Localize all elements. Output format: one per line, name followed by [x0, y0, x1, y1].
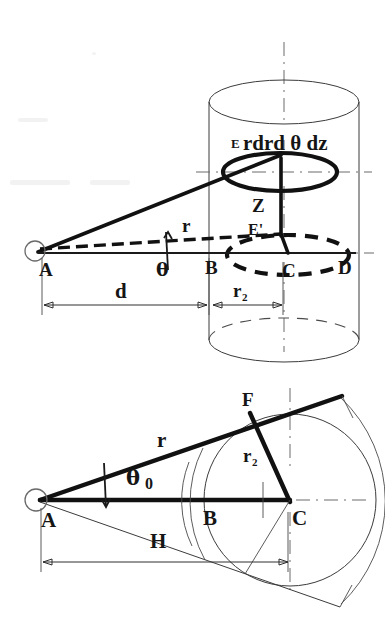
label-point-e: E	[231, 136, 240, 151]
label-point-a-upper: A	[39, 259, 53, 280]
outer-cap-arc-right	[341, 398, 385, 604]
figure-root: E rdrd θ dz Z E' A B C D r θ d r 2	[0, 0, 385, 644]
label-point-c-lower: C	[292, 506, 307, 530]
label-point-d-upper: D	[338, 257, 352, 278]
sector-arc-outer-b	[190, 448, 205, 560]
label-radius-r-upper: r	[182, 215, 191, 236]
label-angle-theta-upper: θ	[156, 258, 169, 280]
label-point-f: F	[242, 389, 254, 410]
label-point-b-lower: B	[203, 506, 217, 530]
label-point-b-upper: B	[205, 257, 218, 278]
outer-cap-tick-bottom	[340, 585, 352, 607]
label-dim-r2: r	[233, 280, 242, 301]
label-dim-r2-subscript: 2	[242, 291, 248, 303]
label-point-e-prime: E'	[248, 221, 263, 238]
upper-panel: E rdrd θ dz Z E' A B C D r θ d r 2	[25, 42, 374, 362]
label-radius-r2-subscript: 2	[252, 456, 258, 468]
technical-diagram-svg: E rdrd θ dz Z E' A B C D r θ d r 2	[0, 0, 385, 644]
label-height-z: Z	[252, 195, 265, 216]
lower-panel: F r r 2 θ 0 A B C H	[25, 388, 385, 607]
tangent-lower-contact-segment	[245, 500, 290, 574]
label-dim-d: d	[115, 279, 127, 303]
outer-cap-tick-top	[342, 396, 353, 418]
label-radius-r2-group: r 2	[243, 445, 258, 468]
label-angle-theta-subscript: 0	[145, 475, 153, 492]
label-dim-h: H	[150, 529, 166, 553]
label-theta0-group: θ 0	[126, 465, 153, 492]
label-volume-element: rdrd θ dz	[243, 131, 327, 155]
label-point-c-upper: C	[282, 260, 296, 281]
label-angle-theta-lower: θ	[126, 465, 140, 490]
label-radius-r-lower: r	[157, 428, 166, 452]
label-radius-r2-lower: r	[243, 445, 252, 466]
label-point-a-lower: A	[41, 508, 57, 532]
label-dim-r2-group: r 2	[233, 280, 248, 303]
